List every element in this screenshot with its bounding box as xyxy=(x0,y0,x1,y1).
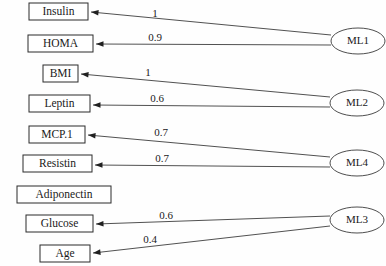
edge-labels-layer: 10.910.60.70.70.60.4 xyxy=(143,7,173,245)
edge-line xyxy=(96,44,331,45)
diagram-canvas: InsulinHOMABMILeptinMCP.1ResistinAdipone… xyxy=(0,0,386,266)
feature-node-label: HOMA xyxy=(43,37,79,49)
feature-node-leptin[interactable]: Leptin xyxy=(29,95,90,112)
edge-line xyxy=(93,105,330,107)
feature-node-homa[interactable]: HOMA xyxy=(28,35,93,52)
arrowhead-icon xyxy=(93,249,101,255)
model-node-ml1[interactable]: ML1 xyxy=(331,28,385,54)
model-node-ml2[interactable]: ML2 xyxy=(330,90,384,116)
feature-node-label: BMI xyxy=(50,67,72,79)
edge-ml2-to-bmi xyxy=(81,72,330,97)
model-node-label: ML1 xyxy=(347,34,369,46)
edge-ml3-to-glucose xyxy=(96,216,330,227)
model-node-ml4[interactable]: ML4 xyxy=(330,150,384,176)
arrowhead-icon xyxy=(95,162,103,168)
arrowhead-icon xyxy=(81,72,89,78)
feature-node-label: Resistin xyxy=(39,157,76,169)
arrowhead-icon xyxy=(96,41,104,47)
arrowhead-icon xyxy=(93,102,101,108)
edge-ml4-to-resistin xyxy=(95,162,330,168)
feature-node-mcp1[interactable]: MCP.1 xyxy=(29,126,85,143)
edges-layer xyxy=(81,10,331,255)
feature-node-label: Age xyxy=(55,247,74,260)
edge-weight-label: 0.9 xyxy=(148,31,162,43)
feature-node-label: Glucose xyxy=(41,217,79,229)
feature-node-label: Insulin xyxy=(43,5,75,17)
feature-node-adiponectin[interactable]: Adiponectin xyxy=(17,186,111,203)
feature-nodes-layer: InsulinHOMABMILeptinMCP.1ResistinAdipone… xyxy=(17,3,111,262)
model-node-label: ML3 xyxy=(346,213,369,225)
edge-weight-label: 0.4 xyxy=(143,233,157,245)
edge-ml1-to-insulin xyxy=(91,10,331,35)
edge-weight-label: 1 xyxy=(145,66,151,78)
edge-weight-label: 0.6 xyxy=(159,209,173,221)
feature-node-resistin[interactable]: Resistin xyxy=(23,155,92,172)
feature-node-label: Leptin xyxy=(44,97,74,110)
model-node-label: ML4 xyxy=(346,156,369,168)
edge-line xyxy=(81,74,330,97)
edge-weight-label: 0.6 xyxy=(150,92,164,104)
feature-node-bmi[interactable]: BMI xyxy=(43,65,78,82)
model-nodes-layer: ML1ML2ML4ML3 xyxy=(330,28,385,233)
edge-ml2-to-leptin xyxy=(93,102,330,108)
model-node-label: ML2 xyxy=(346,96,368,108)
edge-ml4-to-mcp1 xyxy=(88,133,330,157)
feature-node-label: MCP.1 xyxy=(41,128,73,140)
feature-node-insulin[interactable]: Insulin xyxy=(29,3,88,20)
arrowhead-icon xyxy=(96,221,104,227)
edge-weight-label: 1 xyxy=(152,7,158,19)
edge-line xyxy=(91,12,331,35)
arrowhead-icon xyxy=(91,10,99,16)
feature-node-age[interactable]: Age xyxy=(40,245,90,262)
edge-line xyxy=(95,165,330,167)
feature-node-label: Adiponectin xyxy=(36,188,93,201)
arrowhead-icon xyxy=(88,133,96,139)
edge-ml3-to-age xyxy=(93,226,330,255)
model-node-ml3[interactable]: ML3 xyxy=(330,207,384,233)
edge-weight-label: 0.7 xyxy=(155,152,169,164)
edge-line xyxy=(93,226,330,253)
edge-line xyxy=(88,135,330,157)
edge-ml1-to-homa xyxy=(96,41,331,47)
feature-node-glucose[interactable]: Glucose xyxy=(26,215,93,232)
edge-line xyxy=(96,216,330,224)
feature-model-diagram: InsulinHOMABMILeptinMCP.1ResistinAdipone… xyxy=(0,0,386,266)
edge-weight-label: 0.7 xyxy=(154,126,168,138)
